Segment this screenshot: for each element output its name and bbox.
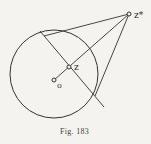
polar-line [40, 31, 104, 107]
point-origin [52, 78, 56, 82]
circle [10, 30, 98, 118]
point-z [67, 65, 71, 69]
label-z-star: z* [134, 10, 144, 20]
label-z: z [74, 62, 79, 72]
figure-caption: Fig. 183 [60, 127, 89, 136]
label-origin: o [57, 81, 62, 90]
point-z-star [127, 12, 131, 16]
figure-diagram: z* z o Fig. 183 [0, 0, 151, 144]
tangent-line-lower [95, 14, 129, 96]
